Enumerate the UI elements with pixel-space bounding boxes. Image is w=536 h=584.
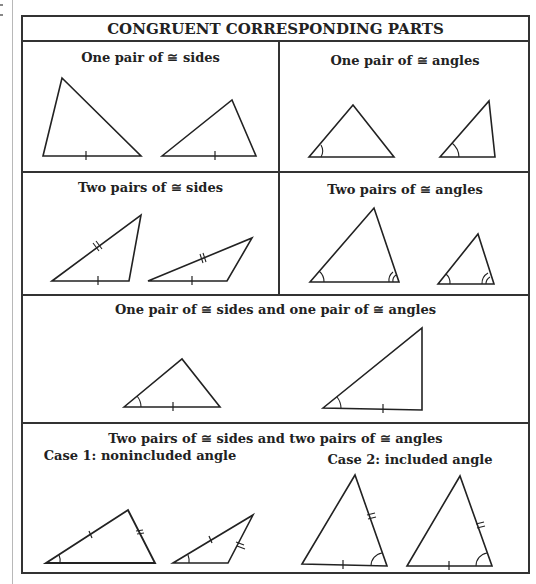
triangle-figures (0, 0, 536, 584)
triangle-case1-a (46, 510, 155, 563)
triangle-case2-b (407, 476, 492, 570)
triangle-two-pairs-angles-b (438, 234, 494, 284)
triangle-side-angle-b (323, 328, 422, 413)
triangle-side-angle-a (124, 359, 220, 411)
triangle-one-pair-angles-a (309, 105, 394, 157)
triangle-case2-a (302, 475, 387, 569)
triangle-two-pairs-sides-a (52, 215, 141, 285)
triangle-two-pairs-sides-b (148, 238, 252, 285)
triangle-one-pair-angles-b (440, 101, 495, 157)
triangle-two-pairs-angles-a (310, 208, 399, 282)
triangle-one-pair-sides-b (162, 100, 256, 160)
triangle-one-pair-sides-a (43, 78, 141, 160)
triangle-case1-b (173, 515, 253, 563)
